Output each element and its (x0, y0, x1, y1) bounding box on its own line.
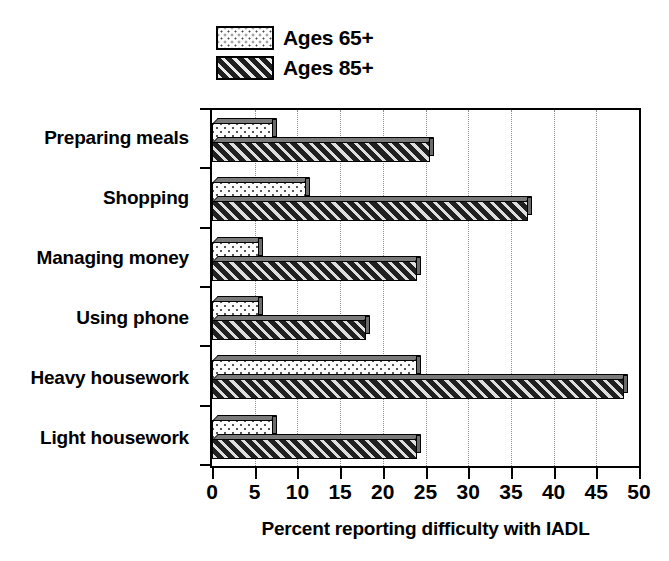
value-tick-label: 40 (542, 480, 565, 504)
category-tick (200, 286, 210, 288)
legend-label-ages-85: Ages 85+ (283, 56, 373, 80)
category-axis-labels: Preparing mealsShoppingManaging moneyUsi… (0, 108, 198, 468)
category-tick (200, 345, 210, 347)
category-tick (200, 227, 210, 229)
bar-group (212, 229, 639, 288)
chart-legend: Ages 65+ Ages 85+ (216, 26, 373, 80)
bar-group (212, 347, 639, 406)
bar-group (212, 407, 639, 466)
bar-ages-85 (212, 201, 528, 221)
bar-ages-85 (212, 320, 366, 340)
bar-ages-85 (212, 379, 624, 399)
category-tick (200, 464, 210, 466)
bar-group (212, 288, 639, 347)
value-tick-label: 0 (206, 480, 218, 504)
hatched-swatch-icon (216, 56, 274, 80)
value-tick (212, 468, 214, 479)
value-tick (297, 468, 299, 479)
legend-item-ages-65: Ages 65+ (216, 26, 373, 50)
legend-label-ages-65: Ages 65+ (283, 26, 373, 50)
bar-groups (212, 110, 639, 466)
category-label: Using phone (0, 288, 198, 348)
category-label: Shopping (0, 168, 198, 228)
bar-ages-85 (212, 261, 417, 281)
value-tick (340, 468, 342, 479)
value-axis: 05101520253035404550 (210, 468, 641, 514)
bar-ages-85 (212, 439, 417, 459)
category-label: Preparing meals (0, 108, 198, 168)
category-label: Managing money (0, 228, 198, 288)
category-label: Light housework (0, 408, 198, 468)
value-tick (511, 468, 513, 479)
x-axis-title: Percent reporting difficulty with IADL (210, 518, 641, 540)
category-tick (200, 405, 210, 407)
value-tick-label: 30 (457, 480, 480, 504)
value-tick-label: 5 (249, 480, 261, 504)
category-tick (200, 108, 210, 110)
value-tick (554, 468, 556, 479)
value-tick (426, 468, 428, 479)
category-tick (200, 167, 210, 169)
value-tick-label: 20 (371, 480, 394, 504)
plot-area (210, 108, 641, 468)
value-tick (255, 468, 257, 479)
bar-ages-85 (212, 142, 430, 162)
legend-item-ages-85: Ages 85+ (216, 56, 373, 80)
value-tick-label: 35 (499, 480, 522, 504)
value-tick (468, 468, 470, 479)
value-tick-label: 15 (328, 480, 351, 504)
dotted-swatch-icon (216, 26, 274, 50)
value-tick (383, 468, 385, 479)
value-tick-label: 25 (414, 480, 437, 504)
category-label: Heavy housework (0, 348, 198, 408)
value-tick-label: 10 (286, 480, 309, 504)
bar-group (212, 169, 639, 228)
bar-group (212, 110, 639, 169)
value-tick-label: 45 (585, 480, 608, 504)
value-tick (596, 468, 598, 479)
category-axis-ticks (200, 108, 210, 468)
value-tick (639, 468, 641, 479)
value-tick-label: 50 (627, 480, 650, 504)
